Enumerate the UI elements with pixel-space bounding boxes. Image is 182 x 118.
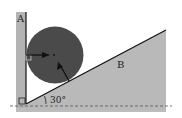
wall-a xyxy=(16,12,26,108)
angle-label: 30° xyxy=(50,95,66,105)
wall-label: A xyxy=(16,13,25,24)
diagram: A B 30° xyxy=(0,0,182,118)
ball-center xyxy=(53,54,55,56)
incline-label: B xyxy=(117,59,124,70)
